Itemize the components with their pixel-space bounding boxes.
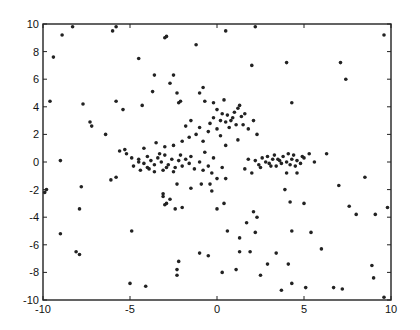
data-point <box>74 250 78 254</box>
data-point <box>290 157 294 161</box>
data-point <box>255 133 259 137</box>
data-point <box>252 210 256 214</box>
data-point <box>283 188 287 192</box>
data-point <box>273 153 277 157</box>
y-tick-label: 10 <box>27 18 39 30</box>
data-point <box>170 157 174 161</box>
data-point <box>344 77 348 81</box>
data-point <box>271 157 275 161</box>
data-point <box>255 215 259 219</box>
y-axis: -10-8-6-4-20246810 <box>23 18 391 306</box>
data-point <box>187 135 191 139</box>
data-point <box>80 185 84 189</box>
data-point <box>220 166 224 170</box>
data-point <box>337 184 341 188</box>
data-point <box>252 119 256 123</box>
data-point <box>266 262 270 266</box>
data-point <box>78 207 82 211</box>
data-point <box>285 171 289 175</box>
data-point <box>234 268 238 272</box>
data-point <box>220 271 224 275</box>
data-point <box>382 33 386 37</box>
data-point <box>154 141 158 145</box>
data-point <box>219 134 223 138</box>
data-point <box>156 156 160 160</box>
data-point <box>172 170 176 174</box>
y-tick-label: -8 <box>29 266 39 278</box>
data-point <box>276 157 280 161</box>
data-point <box>313 160 317 164</box>
data-point <box>287 262 291 266</box>
data-point <box>227 126 231 130</box>
data-point <box>121 108 125 112</box>
data-point <box>179 100 183 104</box>
data-point <box>201 169 205 173</box>
data-point <box>168 82 172 86</box>
data-point <box>260 156 264 160</box>
data-point <box>128 282 132 286</box>
data-point <box>114 175 118 179</box>
data-point <box>165 166 169 170</box>
y-tick-label: -6 <box>29 239 39 251</box>
data-point <box>290 101 294 105</box>
data-point <box>341 287 345 291</box>
data-point <box>163 145 167 149</box>
data-point <box>149 159 153 163</box>
data-point <box>290 229 294 233</box>
data-point <box>137 160 141 164</box>
data-point <box>60 33 64 37</box>
data-point <box>259 166 263 170</box>
data-point <box>339 61 343 65</box>
data-point <box>238 104 242 108</box>
data-point <box>59 232 63 236</box>
data-point <box>114 100 118 104</box>
data-point <box>243 112 247 116</box>
data-point <box>172 144 176 148</box>
plot-frame <box>43 24 391 300</box>
data-point <box>220 112 224 116</box>
data-point <box>78 253 82 257</box>
data-point <box>160 160 164 164</box>
data-point <box>142 146 146 150</box>
data-point <box>224 144 228 148</box>
data-point <box>208 122 212 126</box>
data-point <box>207 130 211 134</box>
data-point <box>250 64 254 68</box>
data-point <box>210 189 214 193</box>
data-point <box>153 170 157 174</box>
data-point <box>175 273 179 277</box>
data-point <box>151 90 155 94</box>
data-point <box>370 264 374 268</box>
data-point <box>207 164 211 168</box>
data-point <box>48 100 52 104</box>
x-axis: -10-50510 <box>35 24 397 315</box>
data-point <box>175 182 179 186</box>
y-tick-label: -4 <box>29 211 39 223</box>
data-point <box>226 229 230 233</box>
data-point <box>224 177 228 181</box>
data-point <box>254 159 258 163</box>
data-point <box>146 155 150 159</box>
data-point <box>304 286 308 290</box>
x-tick-label: 10 <box>385 303 397 315</box>
data-point <box>294 164 298 168</box>
data-point <box>153 163 157 167</box>
data-point <box>172 73 176 77</box>
data-point <box>301 155 305 159</box>
data-point <box>184 157 188 161</box>
data-point <box>233 111 237 115</box>
data-point <box>187 162 191 166</box>
data-point <box>175 91 179 95</box>
data-point <box>203 100 207 104</box>
data-point <box>180 206 184 210</box>
data-point <box>177 159 181 163</box>
data-point <box>180 140 184 144</box>
data-point <box>177 260 181 264</box>
y-tick-label: 0 <box>33 156 39 168</box>
y-tick-label: 2 <box>33 128 39 140</box>
data-point <box>194 43 198 47</box>
data-point <box>215 177 219 181</box>
data-point <box>325 152 329 156</box>
data-point <box>250 171 254 175</box>
data-point <box>215 127 219 131</box>
